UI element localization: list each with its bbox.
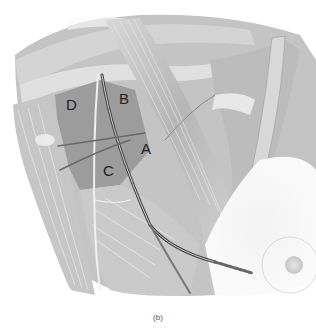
nipple — [285, 256, 303, 274]
figure-caption: (b) — [0, 313, 316, 322]
label-a: A — [141, 141, 151, 156]
illustration-drawing — [0, 0, 316, 330]
label-c: C — [103, 163, 114, 178]
label-d: D — [66, 97, 77, 112]
label-b: B — [119, 91, 129, 106]
anatomical-illustration: A B C D (b) — [0, 0, 316, 330]
highlight — [35, 134, 55, 146]
